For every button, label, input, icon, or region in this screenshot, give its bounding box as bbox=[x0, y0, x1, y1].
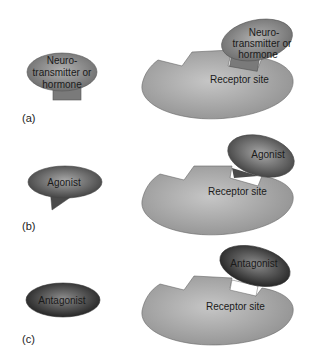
bound-ligand-label: Agonist bbox=[251, 149, 285, 160]
receptor-binding-diagram: Neuro- transmitter or hormone (a) Recept… bbox=[0, 0, 310, 361]
receptor-label: Receptor site bbox=[208, 186, 267, 197]
bound-ligand-label: Antagonist bbox=[230, 258, 277, 269]
free-antagonist: Antagonist bbox=[26, 283, 100, 317]
bound-ligand-label-line: hormone bbox=[238, 49, 278, 60]
ligand-label-line: Neuro- bbox=[47, 55, 78, 66]
receptor: Receptor site bbox=[142, 50, 293, 119]
bound-ligand-label-line: transmitter or bbox=[233, 38, 293, 49]
bound-ligand-label-line: Neuro- bbox=[249, 27, 280, 38]
bound-neurotransmitter: Neuro- transmitter or hormone bbox=[218, 13, 297, 71]
ligand-label: Agonist bbox=[47, 177, 81, 188]
panel-label: (b) bbox=[22, 220, 35, 232]
ligand-label-line: transmitter or bbox=[33, 67, 93, 78]
panel-c: Antagonist (c) Receptor site Antagonist bbox=[22, 238, 295, 345]
panel-a: Neuro- transmitter or hormone (a) Recept… bbox=[22, 13, 296, 124]
panel-label: (a) bbox=[22, 112, 35, 124]
receptor-label: Receptor site bbox=[206, 301, 265, 312]
ligand-label-line: hormone bbox=[42, 79, 82, 90]
free-neurotransmitter: Neuro- transmitter or hormone bbox=[27, 53, 97, 100]
panel-label: (c) bbox=[22, 333, 35, 345]
receptor-label: Receptor site bbox=[210, 74, 269, 85]
ligand-label: Antagonist bbox=[38, 295, 85, 306]
panel-b: Agonist (b) Receptor site Agonist bbox=[22, 128, 299, 235]
bound-agonist: Agonist bbox=[223, 128, 299, 184]
free-agonist: Agonist bbox=[28, 166, 102, 210]
